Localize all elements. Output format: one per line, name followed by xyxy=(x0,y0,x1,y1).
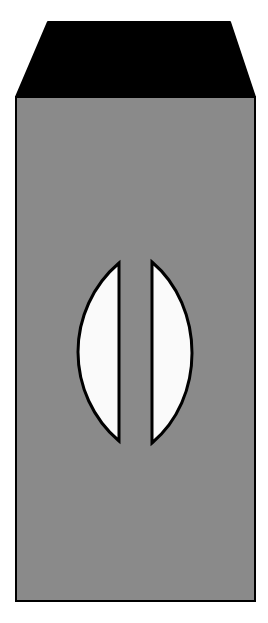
box-front-face xyxy=(16,97,255,601)
box-top-face xyxy=(16,22,255,97)
box-illustration xyxy=(0,0,268,623)
